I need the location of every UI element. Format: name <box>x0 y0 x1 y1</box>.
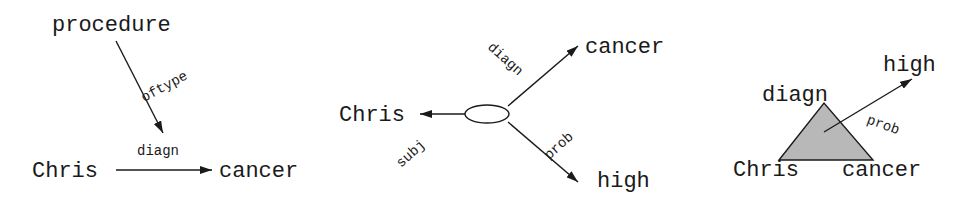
node-cancer: cancer <box>842 158 921 183</box>
hyperedge-ellipse <box>465 105 509 123</box>
node-high: high <box>597 169 650 194</box>
node-chris: Chris <box>733 158 799 183</box>
node-cancer: cancer <box>219 159 298 184</box>
edge-label-diagn: diagn <box>137 143 179 159</box>
edge-label-prob: prob <box>541 129 577 163</box>
edge-label-subj: subj <box>393 137 429 171</box>
diagram-3: diagn Chris cancer high prob <box>733 53 936 183</box>
edge-label-oftype: oftype <box>138 68 190 106</box>
node-cancer: cancer <box>585 35 664 60</box>
diagram-2: Chris cancer high diagn subj prob <box>339 35 664 194</box>
node-high: high <box>883 53 936 78</box>
node-chris: Chris <box>32 159 98 184</box>
node-diagn: diagn <box>762 83 828 108</box>
diagram-canvas: procedure oftype diagn Chris cancer Chri… <box>0 0 975 201</box>
edge-label-diagn: diagn <box>484 39 526 79</box>
diagram-1: procedure oftype diagn Chris cancer <box>32 13 298 184</box>
edge-diagn-arrow <box>508 46 578 106</box>
node-procedure: procedure <box>52 13 171 38</box>
node-chris: Chris <box>339 103 405 128</box>
edge-label-prob: prob <box>865 112 902 139</box>
